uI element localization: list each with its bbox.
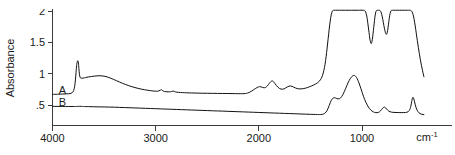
y-axis-ticks: 21.51.5 — [30, 5, 53, 111]
x-tick-label: 4000 — [40, 132, 64, 144]
y-axis-title: Absorbance — [4, 39, 16, 98]
curve-label-b: B — [59, 96, 66, 108]
ir-spectrum-figure: 21.51.5 4000300020001000 AB Absorbance c… — [0, 0, 455, 155]
y-tick-label: .5 — [36, 99, 45, 111]
x-tick-label: 2000 — [247, 132, 271, 144]
unit-superscript: -1 — [431, 130, 438, 139]
curve-label-a: A — [59, 84, 67, 96]
spectrum-curve-b — [53, 75, 424, 114]
x-axis-ticks: 4000300020001000 — [40, 126, 374, 145]
curve-annotations: AB — [59, 84, 67, 108]
y-tick-label: 1.5 — [30, 36, 45, 48]
spectrum-curves — [0, 0, 455, 115]
x-tick-label: 3000 — [143, 132, 167, 144]
axes — [53, 9, 453, 126]
spectrum-curve-a — [53, 10, 424, 94]
y-tick-label: 1 — [39, 68, 45, 80]
plot-top-mask — [0, 0, 455, 9]
spectrum-plot: 21.51.5 4000300020001000 AB Absorbance c… — [0, 0, 455, 155]
x-tick-label: 1000 — [350, 132, 374, 144]
x-axis-unit-label: cm-1 — [416, 130, 437, 143]
